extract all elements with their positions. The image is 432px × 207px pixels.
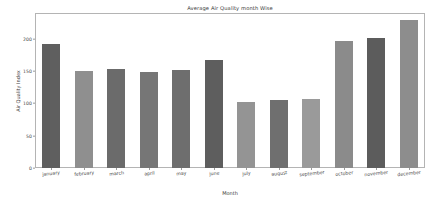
x-axis-tick-slot: july (230, 168, 263, 190)
bar-slot (295, 13, 328, 168)
plot-area: 050100150200 (35, 13, 425, 168)
bar-slot (198, 13, 231, 168)
bar-slot (35, 13, 68, 168)
bar-february (75, 71, 93, 168)
x-axis-tick-label: october (335, 170, 353, 177)
bar-october (335, 41, 353, 168)
bar-slot (328, 13, 361, 168)
x-axis-tick-label: february (74, 170, 94, 177)
x-axis-tick-label: april (144, 171, 155, 177)
x-axis-tick-slot: january (35, 168, 68, 190)
bar-series (35, 13, 425, 168)
x-axis-tick-slot: june (198, 168, 231, 190)
x-axis-tick-label: may (176, 171, 187, 177)
x-axis-tick-label: july (242, 171, 251, 177)
chart-figure: Average Air Quality month Wise Air Quali… (0, 0, 432, 207)
bar-slot (230, 13, 263, 168)
bar-january (42, 44, 60, 168)
x-axis-tick-mark (409, 168, 410, 170)
bar-july (237, 102, 255, 168)
bar-november (367, 38, 385, 168)
x-axis-tick-slot: december (393, 168, 426, 190)
chart-title: Average Air Quality month Wise (35, 5, 425, 11)
x-axis-tick-mark (181, 168, 182, 170)
x-axis-tick-label: august (271, 171, 288, 178)
x-axis-tick-slot: october (328, 168, 361, 190)
x-axis-tick-mark (311, 168, 312, 170)
bar-april (140, 72, 158, 168)
x-axis-tick-mark (84, 168, 85, 170)
bar-august (270, 100, 288, 168)
bar-slot (68, 13, 101, 168)
x-axis-tick-mark (279, 168, 280, 170)
x-axis-tick-slot: november (360, 168, 393, 190)
x-axis-tick-mark (214, 168, 215, 170)
x-axis-tick-slot: february (68, 168, 101, 190)
x-axis-tick-mark (246, 168, 247, 170)
bar-slot (360, 13, 393, 168)
x-axis-tick-slot: september (295, 168, 328, 190)
bar-slot (165, 13, 198, 168)
bar-december (400, 20, 418, 168)
y-axis-title: Air Quality Index (13, 13, 23, 168)
bar-slot (100, 13, 133, 168)
y-axis-title-text: Air Quality Index (15, 70, 21, 112)
x-axis-tick-label: january (42, 170, 60, 177)
x-axis-tick-slot: april (133, 168, 166, 190)
x-axis-tick-mark (116, 168, 117, 170)
x-axis-tick-mark (51, 168, 52, 170)
bar-slot (263, 13, 296, 168)
bar-june (205, 60, 223, 169)
x-axis-ticks: januaryfebruarymarchaprilmayjunejulyaugu… (35, 168, 425, 190)
x-axis-tick-label: november (364, 170, 388, 177)
x-axis-tick-mark (376, 168, 377, 170)
x-axis-tick-mark (149, 168, 150, 170)
x-axis-tick-label: december (397, 170, 421, 177)
x-axis-title: Month (35, 190, 425, 196)
bar-slot (133, 13, 166, 168)
x-axis-tick-label: june (209, 171, 220, 177)
x-axis-tick-mark (344, 168, 345, 170)
bar-march (107, 69, 125, 168)
bar-may (172, 70, 190, 168)
x-axis-tick-label: september (299, 170, 325, 178)
bar-slot (393, 13, 426, 168)
bar-september (302, 99, 320, 168)
x-axis-tick-slot: march (100, 168, 133, 190)
x-axis-tick-slot: may (165, 168, 198, 190)
x-axis-tick-label: march (109, 171, 124, 178)
x-axis-tick-slot: august (263, 168, 296, 190)
